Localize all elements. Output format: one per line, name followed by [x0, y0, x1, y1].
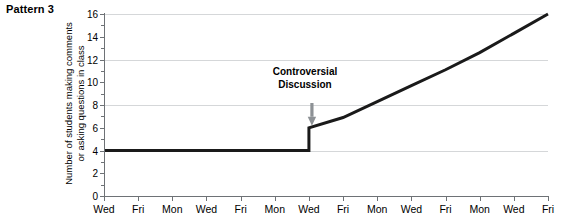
x-axis-tick-label: Mon — [367, 203, 387, 215]
x-axis-tick-label: Wed — [401, 203, 422, 215]
x-axis-tick-label: Fri — [542, 203, 554, 215]
x-axis-ticks: WedFriMonWedFriMonWedFriMonWedFriMonWedF… — [104, 196, 549, 224]
x-axis-tick-label: Mon — [162, 203, 182, 215]
x-axis-tick — [446, 196, 447, 201]
x-axis-tick — [411, 196, 412, 201]
x-axis-tick-label: Wed — [298, 203, 319, 215]
x-axis-tick — [138, 196, 139, 201]
y-axis-title-line-2: or asking questions in class — [74, 9, 86, 199]
x-axis-tick-label: Mon — [265, 203, 285, 215]
y-axis-tick-label: 2 — [92, 168, 98, 179]
arrow-head — [308, 117, 316, 126]
x-axis-tick — [343, 196, 344, 201]
pattern-3-chart-figure: Pattern 3 Number of students making comm… — [0, 0, 562, 224]
y-axis-tick-label: 4 — [92, 145, 98, 156]
x-axis-tick-label: Fri — [337, 203, 349, 215]
y-axis-line — [104, 13, 105, 197]
x-axis-tick — [206, 196, 207, 201]
x-axis-tick-label: Mon — [469, 203, 489, 215]
x-axis-tick — [104, 196, 105, 201]
x-axis-tick — [377, 196, 378, 201]
x-axis-tick-label: Wed — [503, 203, 524, 215]
annotation-controversial-discussion: Controversial Discussion — [240, 66, 370, 91]
y-axis-tick-label: 6 — [92, 122, 98, 133]
x-axis-tick — [548, 196, 549, 201]
annotation-line-1: Controversial — [240, 66, 370, 79]
x-axis-tick-label: Fri — [234, 203, 246, 215]
x-axis-tick-label: Wed — [93, 203, 114, 215]
y-axis-tick-label: 8 — [92, 100, 98, 111]
y-axis-tick-label: 12 — [87, 54, 98, 65]
x-axis-tick-label: Wed — [196, 203, 217, 215]
x-axis-tick — [172, 196, 173, 201]
plot-area: 0246810121416 — [104, 14, 548, 196]
x-axis-tick — [241, 196, 242, 201]
x-axis-tick-label: Fri — [439, 203, 451, 215]
x-axis-tick — [275, 196, 276, 201]
page-title: Pattern 3 — [6, 3, 54, 15]
y-axis-tick-label: 0 — [92, 191, 98, 202]
x-axis-tick — [309, 196, 310, 201]
y-axis-tick-label: 16 — [87, 9, 98, 20]
y-axis-tick-label: 10 — [87, 77, 98, 88]
y-axis-title: Number of students making comments or as… — [63, 9, 86, 199]
y-axis-tick-label: 14 — [87, 31, 98, 42]
x-axis-tick-label: Fri — [132, 203, 144, 215]
x-axis-tick — [480, 196, 481, 201]
arrow-shaft — [310, 103, 313, 117]
y-axis-title-line-1: Number of students making comments — [63, 9, 75, 199]
x-axis-tick — [514, 196, 515, 201]
annotation-line-2: Discussion — [240, 79, 370, 92]
down-arrow-icon — [104, 14, 548, 196]
